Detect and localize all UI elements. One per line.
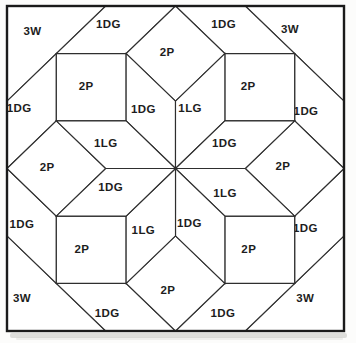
piece-label-star-diamond-n-nw: 1DG: [131, 103, 156, 115]
piece-label-onpoint-square-east: 2P: [276, 160, 291, 172]
piece-label-edge-parallelogram-left-bottom: 1DG: [10, 218, 35, 230]
piece-label-star-diamond-e-se: 1LG: [213, 187, 237, 199]
piece-label-corner-triangle-se: 3W: [296, 292, 314, 304]
piece-square-sw: [56, 216, 126, 283]
piece-label-star-diamond-n-ne: 1LG: [178, 102, 202, 114]
piece-label-edge-parallelogram-right-top: 1DG: [294, 105, 319, 117]
piece-label-star-diamond-s-se: 1DG: [177, 217, 202, 229]
piece-label-edge-parallelogram-left-top: 1DG: [7, 102, 32, 114]
piece-label-star-diamond-w-sw: 1DG: [98, 181, 123, 193]
piece-square-ne: [225, 54, 295, 121]
piece-label-square-sw: 2P: [75, 243, 90, 255]
piece-label-star-diamond-s-sw: 1LG: [132, 224, 156, 236]
piece-label-star-diamond-w-nw: 1LG: [94, 137, 118, 149]
piece-label-corner-triangle-nw: 3W: [23, 25, 41, 37]
scanned-page: 3W3W3W3W1DG1DG1DG1DG1DG1DG1DG1DG2P2P2P2P…: [0, 0, 356, 343]
piece-label-edge-parallelogram-bottom-right: 1DG: [211, 307, 236, 319]
piece-label-edge-parallelogram-top-left: 1DG: [96, 18, 121, 30]
piece-label-corner-triangle-ne: 3W: [281, 23, 299, 35]
piece-label-corner-triangle-sw: 3W: [13, 292, 31, 304]
piece-label-square-se: 2P: [241, 243, 256, 255]
quilt-block-diagram: 3W3W3W3W1DG1DG1DG1DG1DG1DG1DG1DG2P2P2P2P…: [0, 0, 356, 343]
piece-label-edge-parallelogram-right-bottom: 1DG: [293, 222, 318, 234]
page-shadow: [10, 333, 347, 338]
piece-label-star-diamond-e-ne: 1DG: [212, 137, 237, 149]
piece-label-square-nw: 2P: [79, 80, 94, 92]
page-shadow-soft: [16, 338, 343, 341]
piece-label-onpoint-square-west: 2P: [40, 161, 55, 173]
piece-square-se: [225, 216, 295, 283]
piece-label-edge-parallelogram-top-right: 1DG: [211, 18, 236, 30]
piece-label-onpoint-square-south: 2P: [160, 284, 175, 296]
piece-label-onpoint-square-north: 2P: [160, 46, 175, 58]
piece-label-edge-parallelogram-bottom-left: 1DG: [95, 307, 120, 319]
piece-label-square-ne: 2P: [241, 80, 256, 92]
